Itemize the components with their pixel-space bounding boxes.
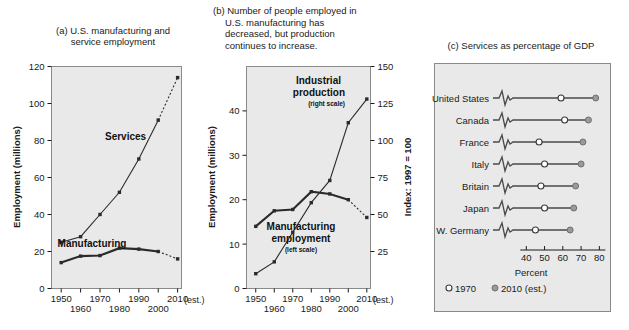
y-tick-label: 100	[29, 98, 45, 109]
panel-b-title-line4: continues to increase.	[225, 40, 317, 51]
data-point	[98, 254, 101, 257]
panel-b-label-production: production	[293, 87, 345, 98]
marker-2010	[585, 117, 591, 123]
panel-b-x-ticks: 1950196019701980199020002010	[245, 289, 377, 314]
panel-a-label-manufacturing: Manufacturing	[58, 238, 127, 249]
data-point	[328, 179, 331, 182]
data-point	[118, 191, 121, 194]
panel-b: (b) Number of people employed in U.S. ma…	[206, 5, 413, 314]
panel-c-x-axis-title: Percent	[515, 267, 548, 278]
panel-a-plot-area	[52, 67, 182, 289]
panel-c-title: (c) Services as percentage of GDP	[448, 40, 595, 51]
data-point	[310, 201, 313, 204]
marker-1970	[562, 117, 568, 123]
panel-b-est-note: (est.)	[373, 295, 394, 305]
y-tick-label: 20	[34, 246, 45, 257]
y-tick-label: 40	[34, 209, 45, 220]
marker-2010	[571, 205, 577, 211]
marker-1970	[532, 227, 538, 233]
x-tick-label: 1990	[128, 293, 149, 304]
marker-1970	[538, 183, 544, 189]
y-tick-label-left: 10	[229, 239, 240, 250]
data-point	[157, 118, 160, 121]
legend-marker-2010	[492, 285, 498, 291]
marker-2010	[578, 161, 584, 167]
marker-2010	[580, 139, 586, 145]
marker-2010	[593, 95, 599, 101]
data-point	[365, 97, 368, 100]
x-tick-label: 60	[558, 252, 569, 263]
data-point	[176, 76, 179, 79]
marker-2010	[567, 227, 573, 233]
panel-b-title-line1: (b) Number of people employed in	[213, 5, 357, 16]
y-tick-label-right: 100	[378, 135, 394, 146]
y-tick-label-left: 40	[229, 105, 240, 116]
y-tick-label-right: 75	[378, 172, 389, 183]
panel-b-label-right-scale: (right scale)	[308, 100, 345, 108]
data-point	[273, 260, 276, 263]
y-tick-label-right: 50	[378, 209, 389, 220]
panel-b-title-line3: decreased, but production	[225, 28, 335, 39]
x-tick-label: 2000	[148, 303, 169, 314]
category-label: United States	[432, 93, 489, 104]
panel-b-label-industrial: Industrial	[296, 75, 341, 86]
x-tick-label: 1960	[264, 303, 285, 314]
panel-b-label-employment: employment	[272, 233, 332, 244]
panel-b-label-left-scale: (left scale)	[285, 246, 317, 254]
data-point	[98, 213, 101, 216]
y-tick-label-left: 20	[229, 194, 240, 205]
figure-root: (a) U.S. manufacturing and service emplo…	[0, 0, 629, 330]
panel-a-x-ticks: 1950196019701980199020002010	[51, 289, 189, 314]
y-tick-label-right: 125	[378, 98, 394, 109]
legend-marker-1970	[446, 285, 452, 291]
data-point	[347, 198, 350, 201]
panel-b-title-line2: U.S. manufacturing has	[225, 17, 325, 28]
data-point	[291, 208, 294, 211]
panel-c: (c) Services as percentage of GDP United…	[432, 40, 611, 312]
panel-a-label-services: Services	[105, 131, 147, 142]
data-point	[365, 216, 368, 219]
panel-a-est-note: (est.)	[184, 295, 205, 305]
category-label: France	[459, 137, 489, 148]
x-tick-label: 1970	[89, 293, 110, 304]
panel-a-title-line1: (a) U.S. manufacturing and	[56, 25, 170, 36]
data-point	[176, 257, 179, 260]
marker-1970	[542, 205, 548, 211]
data-point	[347, 121, 350, 124]
data-point	[60, 261, 63, 264]
panel-b-y-axis-title-right: Index: 1997 = 100	[402, 138, 413, 216]
data-point	[273, 209, 276, 212]
category-label: Canada	[456, 115, 490, 126]
panel-b-y-ticks-right: 255075100125150	[371, 61, 394, 257]
data-point	[254, 272, 257, 275]
data-point	[328, 192, 331, 195]
panel-a-title-line2: service employment	[71, 36, 156, 47]
x-tick-label: 1980	[109, 303, 130, 314]
data-point	[254, 225, 257, 228]
category-label: Italy	[472, 159, 490, 170]
x-tick-label: 1980	[301, 303, 322, 314]
panel-b-y-ticks-left: 010203040	[229, 105, 247, 294]
x-tick-label: 1950	[51, 293, 72, 304]
x-tick-label: 2000	[338, 303, 359, 314]
data-point	[310, 190, 313, 193]
category-label: Britain	[462, 181, 489, 192]
legend-label-2010: 2010 (est.)	[501, 283, 546, 294]
marker-1970	[536, 139, 542, 145]
panel-b-y-axis-title-left: Employment (millions)	[206, 126, 217, 228]
data-point	[79, 254, 82, 257]
legend-label-1970: 1970	[455, 283, 476, 294]
y-tick-label: 120	[29, 61, 45, 72]
category-label: Japan	[463, 203, 489, 214]
y-tick-label: 80	[34, 135, 45, 146]
y-tick-label: 0	[39, 283, 44, 294]
y-tick-label-left: 30	[229, 150, 240, 161]
x-tick-label: 1960	[70, 303, 91, 314]
panel-a-y-axis-title: Employment (millions)	[11, 126, 22, 228]
category-label: W. Germany	[436, 225, 489, 236]
y-tick-label-left: 0	[234, 283, 239, 294]
data-point	[137, 247, 140, 250]
data-point	[157, 250, 160, 253]
x-tick-label: 70	[576, 252, 587, 263]
x-tick-label: 40	[521, 252, 532, 263]
